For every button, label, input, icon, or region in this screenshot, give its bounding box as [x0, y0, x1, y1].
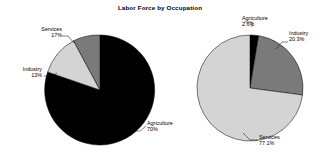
left-label-industry: Industry 13%: [4, 66, 42, 78]
right-label-services-pct: 77.1%: [259, 140, 295, 146]
right-label-industry: Industry 20.3%: [289, 30, 319, 42]
right-slice-industry: [250, 36, 303, 95]
left-label-services-pct: 17%: [22, 32, 62, 38]
labor-force-figure: Labor Force by Occupation Services 17% I…: [0, 0, 320, 162]
right-label-agriculture-pct: 2.6%: [242, 21, 286, 27]
right-label-agriculture: Agriculture 2.6%: [242, 15, 286, 27]
right-label-industry-pct: 20.3%: [289, 36, 319, 42]
left-label-services: Services 17%: [22, 26, 62, 38]
left-label-industry-pct: 13%: [4, 72, 42, 78]
left-label-agriculture-pct: 70%: [147, 126, 191, 132]
right-label-services: Services 77.1%: [259, 134, 295, 146]
left-label-agriculture: Agriculture 70%: [147, 120, 191, 132]
